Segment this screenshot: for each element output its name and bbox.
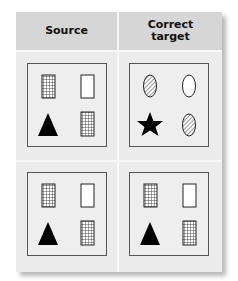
white-rect-icon xyxy=(81,75,94,98)
white-ellipse-icon xyxy=(183,75,196,97)
white-rect-icon xyxy=(81,184,94,207)
header-divider xyxy=(16,50,222,52)
black-triangle-icon xyxy=(38,113,58,136)
hatched-ellipse-icon xyxy=(183,114,196,136)
row1-source-panel xyxy=(27,63,107,147)
grid-rect-icon xyxy=(42,75,55,98)
white-rect-icon xyxy=(183,184,196,207)
row2-target-panel xyxy=(129,172,209,256)
row2-source-panel xyxy=(27,172,107,256)
black-triangle-icon xyxy=(140,222,160,245)
grid-rect-icon xyxy=(81,221,94,245)
header-correct-target: Correcttarget xyxy=(119,12,222,50)
comparison-table: Source Correcttarget xyxy=(16,12,222,272)
grid-rect-icon xyxy=(42,184,55,207)
header-source-label: Source xyxy=(45,25,88,37)
grid-rect-icon xyxy=(144,184,157,207)
header-target-line2: target xyxy=(151,30,190,43)
grid-rect-icon xyxy=(183,221,196,245)
black-star-icon xyxy=(137,112,163,136)
grid-rect-icon xyxy=(81,112,94,136)
row1-target-panel xyxy=(129,63,209,147)
row-divider xyxy=(16,160,222,162)
black-triangle-icon xyxy=(38,222,58,245)
hatched-ellipse-icon xyxy=(144,75,157,97)
header-target-label: Correcttarget xyxy=(148,19,194,43)
header-source: Source xyxy=(16,12,117,50)
